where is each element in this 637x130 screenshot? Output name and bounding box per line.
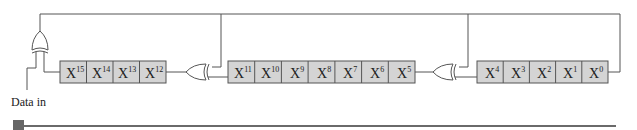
xor-gate-2	[186, 64, 228, 80]
register-group-3: X4 X3 X2 X1 X0	[477, 61, 608, 83]
xor-gate-input	[27, 31, 60, 90]
xor-gate-3	[433, 64, 477, 80]
bar-handle	[13, 120, 24, 130]
register-group-2: X11 X10 X9 X8 X7 X6 X5	[228, 61, 415, 83]
data-in-label: Data in	[11, 95, 46, 110]
register-group-1: X15 X14 X13 X12	[60, 61, 166, 83]
crc-diagram: X15 X14 X13 X12 X11 X10 X9 X8 X7 X6 X5	[0, 0, 637, 130]
